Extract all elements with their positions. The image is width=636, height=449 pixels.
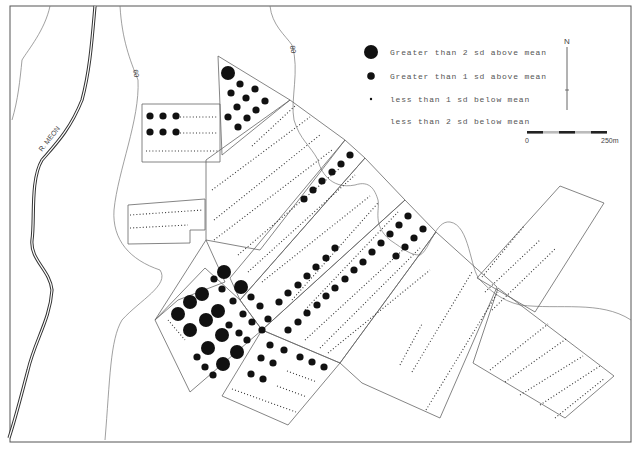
legend-medium-dot-icon [367,72,375,80]
river: R. MEON [9,6,95,438]
transect-lines [130,105,605,418]
survey-map: R. MEON 60 80 [0,0,636,449]
field-boundaries [128,56,614,425]
scale-start-label: 0 [525,137,529,144]
legend: Greater than 2 sd above mean Greater tha… [364,45,547,126]
legend-label-4: less than 2 sd below mean [390,117,530,126]
scale-end-label: 250m [601,137,619,144]
legend-label-2: Greater than 1 sd above mean [390,72,547,81]
contour-label-60: 60 [132,69,140,78]
legend-label-3: less than 1 sd below mean [390,95,530,104]
north-label: N [564,37,570,46]
north-arrow-icon: N [564,37,570,110]
river-label: R. MEON [37,125,61,153]
contour-label-80: 80 [289,45,297,54]
legend-large-dot-icon [364,45,378,59]
scale-bar: 0 250m [525,131,619,144]
legend-small-dot-icon [370,98,372,100]
legend-label-1: Greater than 2 sd above mean [390,48,547,57]
anomaly-dots [146,66,426,383]
